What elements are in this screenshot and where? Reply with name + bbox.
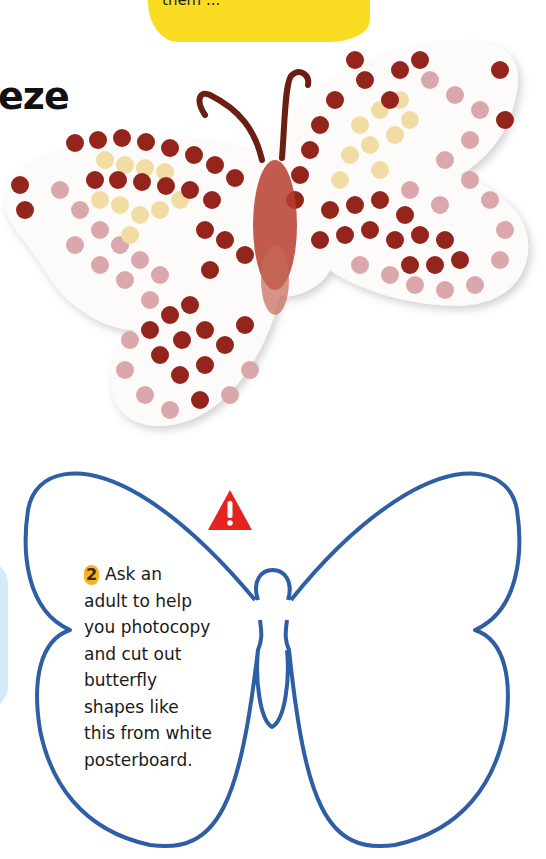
step-line: shapes like (84, 697, 179, 717)
step-number-badge: 2 (84, 565, 99, 585)
step-line: butterfly (84, 670, 157, 690)
step-line: you photocopy (84, 617, 210, 637)
warning-triangle-icon (206, 488, 254, 532)
step-line: this from white (84, 723, 212, 743)
step-line: adult to help (84, 591, 192, 611)
painted-butterfly-photo (0, 40, 546, 460)
instruction-note-text: them ... (162, 0, 220, 9)
butterfly-outline-template (0, 440, 546, 859)
step-line: Ask an (105, 564, 162, 584)
step-instruction: 2Ask an adult to help you photocopy and … (84, 561, 214, 773)
step-line: and cut out (84, 644, 181, 664)
step-line: posterboard. (84, 750, 193, 770)
